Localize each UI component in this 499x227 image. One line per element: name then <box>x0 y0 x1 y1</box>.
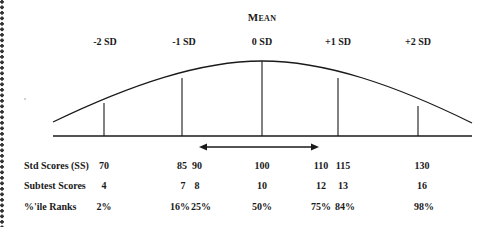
percentile-value: 75% <box>311 201 331 212</box>
percentile-value: 25% <box>191 201 211 212</box>
stray-mark <box>24 98 26 100</box>
percentile-value: 16% <box>170 201 190 212</box>
subtest-value: 16 <box>417 180 427 191</box>
subtest-value: 7 <box>181 180 186 191</box>
subtest-value: 4 <box>102 180 107 191</box>
row-label-std-scores: Std Scores (SS) <box>24 160 89 171</box>
subtest-value: 8 <box>195 180 200 191</box>
subtest-value: 13 <box>338 180 348 191</box>
ss-value: 70 <box>99 160 109 171</box>
arrow-head-right-icon <box>311 144 319 151</box>
row-label-percentile-ranks: %'ile Ranks <box>24 201 77 212</box>
row-label-subtest-scores: Subtest Scores <box>24 180 86 191</box>
ss-value: 115 <box>336 160 350 171</box>
arrow-head-left-icon <box>199 144 207 151</box>
ss-value: 85 <box>177 160 187 171</box>
subtest-value: 10 <box>257 180 267 191</box>
bell-curve-diagram <box>0 0 499 227</box>
ss-value: 130 <box>415 160 430 171</box>
subtest-value: 12 <box>316 180 326 191</box>
ss-value: 90 <box>192 160 202 171</box>
percentile-value: 98% <box>414 201 434 212</box>
percentile-value: 2% <box>97 201 112 212</box>
ss-value: 110 <box>314 160 328 171</box>
percentile-value: 84% <box>335 201 355 212</box>
ss-value: 100 <box>255 160 270 171</box>
percentile-value: 50% <box>252 201 272 212</box>
